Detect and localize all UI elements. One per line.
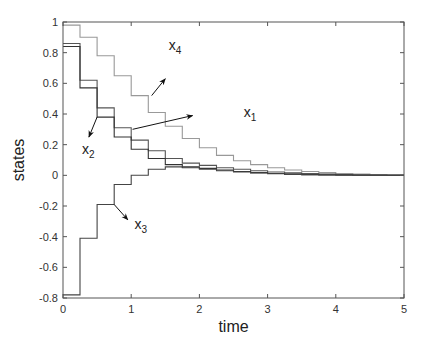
annotation-label-x3: x3 xyxy=(135,216,148,235)
step-response-chart: 012345-0.8-0.6-0.4-0.200.20.40.60.81 x4x… xyxy=(0,0,426,346)
y-tick-label: 0.6 xyxy=(43,77,58,89)
y-tick-label: 0.8 xyxy=(43,47,58,59)
annotation-arrow-x2 xyxy=(89,117,97,137)
x-tick-label: 2 xyxy=(196,303,202,315)
y-tick-label: 0.2 xyxy=(43,139,58,151)
annotation-arrow-x4 xyxy=(152,79,166,96)
annotation-arrow-x1 xyxy=(133,116,193,130)
series-x4-line xyxy=(63,25,404,175)
x-tick-label: 0 xyxy=(60,303,66,315)
x-tick-label: 1 xyxy=(128,303,134,315)
y-tick-label: -0.2 xyxy=(39,200,58,212)
annotation-label-x2: x2 xyxy=(82,141,95,160)
y-tick-label: -0.6 xyxy=(39,261,58,273)
x-tick-label: 3 xyxy=(265,303,271,315)
y-axis-label: states xyxy=(10,139,27,182)
x-tick-label: 5 xyxy=(401,303,407,315)
annotation-label-x1: x1 xyxy=(244,104,257,123)
x-tick-label: 4 xyxy=(333,303,339,315)
annotations: x4x1x2x3 xyxy=(82,37,257,235)
y-tick-label: -0.8 xyxy=(39,292,58,304)
series-x3-line xyxy=(63,167,404,295)
annotation-arrow-x3 xyxy=(114,204,128,219)
axis-ticks: 012345-0.8-0.6-0.4-0.200.20.40.60.81 xyxy=(39,16,407,315)
series-layer xyxy=(63,25,404,295)
y-tick-label: 0.4 xyxy=(43,108,58,120)
y-tick-label: -0.4 xyxy=(39,231,58,243)
annotation-label-x4: x4 xyxy=(169,37,182,56)
y-tick-label: 1 xyxy=(52,16,58,28)
x-axis-label: time xyxy=(218,318,248,335)
y-tick-label: 0 xyxy=(52,169,58,181)
